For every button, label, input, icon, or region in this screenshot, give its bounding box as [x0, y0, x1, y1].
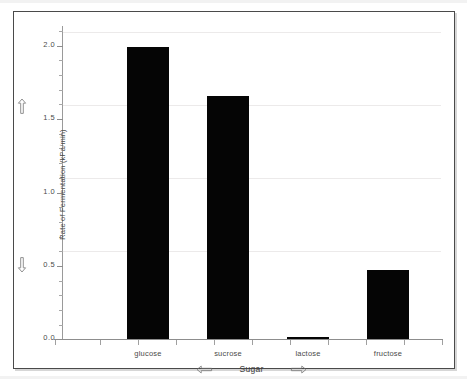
x-tick — [176, 340, 177, 345]
x-tick — [55, 340, 56, 345]
y-tick-minor — [59, 281, 63, 282]
y-axis-title-host: Rate of Fermentation (kPa/min) — [36, 32, 50, 339]
y-tick-minor — [59, 295, 63, 296]
y-tick-minor — [59, 325, 63, 326]
y-tick-minor — [59, 75, 63, 76]
y-tick-minor — [59, 90, 63, 91]
x-tick — [442, 340, 443, 345]
y-axis-title: Rate of Fermentation (kPa/min) — [58, 94, 67, 274]
chart-window: 2.0 1.5 1.0 0.5 0.0 Rat — [13, 11, 455, 369]
y-tick-minor — [59, 310, 63, 311]
x-tick — [328, 340, 329, 345]
y-tick-minor — [59, 60, 63, 61]
x-tick — [214, 340, 215, 345]
x-label-lactose: lactose — [295, 349, 320, 358]
x-label-fructose: fructose — [374, 349, 402, 358]
y-tick-minor — [59, 31, 63, 32]
up-arrow-icon[interactable] — [17, 98, 27, 115]
x-label-sucrose: sucrose — [214, 349, 242, 358]
x-tick — [138, 340, 139, 345]
page-top-edge — [0, 0, 467, 3]
bar-glucose[interactable] — [127, 47, 169, 339]
bar-sucrose[interactable] — [207, 96, 249, 339]
right-arrow-icon[interactable] — [290, 365, 307, 374]
bar-fructose[interactable] — [367, 270, 409, 339]
bar-chart: 2.0 1.5 1.0 0.5 0.0 Rat — [14, 12, 454, 368]
bars-container — [62, 32, 441, 339]
x-tick — [100, 340, 101, 345]
x-tick — [366, 340, 367, 345]
x-label-glucose: glucose — [134, 349, 161, 358]
left-arrow-icon[interactable] — [196, 365, 213, 374]
y-tick-major-2-0 — [57, 46, 63, 47]
x-axis-title: Sugar — [239, 364, 263, 374]
x-axis-line — [54, 339, 443, 340]
x-tick — [290, 340, 291, 345]
x-tick — [404, 340, 405, 345]
down-arrow-icon[interactable] — [17, 256, 27, 273]
x-axis-title-row: Sugar — [62, 361, 441, 377]
x-tick — [252, 340, 253, 345]
